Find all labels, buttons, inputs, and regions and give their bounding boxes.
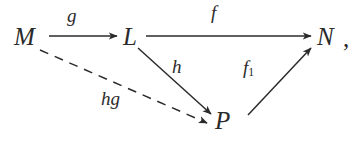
edge-label-f1-subscript: 1: [248, 66, 254, 79]
node-P: P: [215, 108, 230, 133]
edge-label-f: f: [211, 3, 216, 22]
trailing-comma: ,: [343, 26, 349, 51]
node-L: L: [123, 24, 137, 49]
commutative-diagram: M L N P , g f h f1 hg: [0, 0, 361, 146]
node-N: N: [317, 24, 334, 49]
node-M: M: [14, 24, 35, 49]
edge-P-to-N: [248, 48, 311, 115]
edge-label-g: g: [67, 6, 77, 25]
edge-M-to-P-dashed: [40, 50, 207, 123]
edge-label-hg: hg: [101, 89, 120, 108]
edge-label-f-subscript-1: f1: [243, 58, 254, 79]
edge-label-h: h: [172, 57, 182, 76]
